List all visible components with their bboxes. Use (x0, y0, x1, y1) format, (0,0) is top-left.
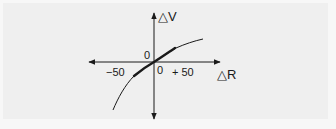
origin-y-label: 0 (144, 49, 150, 61)
y-axis-label: △V (158, 9, 177, 24)
x-tick-neg-50: −50 (106, 66, 125, 78)
origin-x-label: 0 (157, 64, 163, 76)
x-axis-label: △R (217, 67, 236, 82)
delta-v-vs-delta-r-diagram: △V △R 0 0 −50 + 50 (0, 0, 336, 129)
x-tick-pos-50: + 50 (172, 66, 194, 78)
